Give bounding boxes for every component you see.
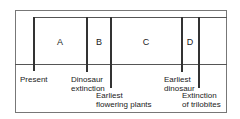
marker-label-present: Present xyxy=(20,75,48,84)
marker-label-line: Extinction xyxy=(182,91,221,100)
marker-label-line: Earliest xyxy=(96,91,152,100)
marker-label-line: Present xyxy=(20,75,48,84)
marker-label-line: flowering plants xyxy=(96,100,152,109)
marker-label-earliest-flowering-plants: Earliest flowering plants xyxy=(96,91,152,109)
marker-line-earliest-flowering-plants xyxy=(110,17,112,88)
marker-line-dinosaur-extinction xyxy=(86,17,88,72)
marker-line-present xyxy=(33,17,35,71)
timeline-base-line xyxy=(15,64,227,65)
region-a-label: A xyxy=(50,37,70,47)
region-c-label: C xyxy=(136,37,156,47)
region-b-label: B xyxy=(89,37,109,47)
marker-line-extinction-of-trilobites xyxy=(198,17,200,88)
region-d-label: D xyxy=(180,37,200,47)
marker-label-line: Earliest xyxy=(164,75,195,84)
marker-label-extinction-of-trilobites: Extinction of trilobites xyxy=(182,91,221,109)
marker-label-line: of trilobites xyxy=(182,100,221,109)
marker-label-line: Dinosaur xyxy=(71,75,105,84)
